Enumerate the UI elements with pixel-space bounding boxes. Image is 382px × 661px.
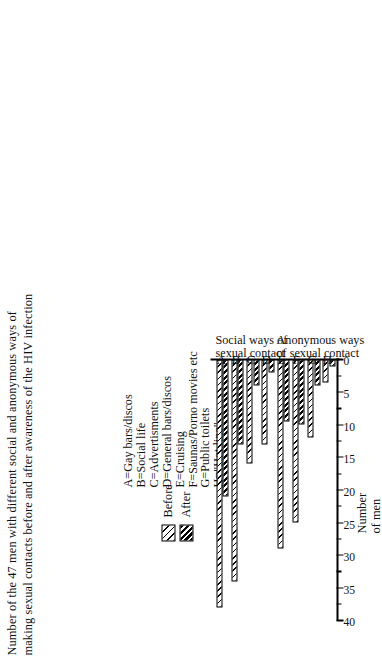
value-axis-tick xyxy=(336,375,341,376)
value-axis-tick-label: 40 xyxy=(343,616,355,629)
legend-swatch-after-icon xyxy=(179,524,193,541)
category-key-item-b: B=Social life xyxy=(134,351,147,487)
bar-before-d xyxy=(261,359,267,444)
value-axis-tick xyxy=(336,424,343,425)
value-axis-tick-label: 20 xyxy=(343,485,355,498)
legend-item-after: After xyxy=(178,484,193,541)
chart-title-line-1: Number of the 47 men with different soci… xyxy=(4,95,20,655)
category-key-item-g: G=Public toilets xyxy=(198,351,211,487)
value-axis-tick xyxy=(336,473,341,474)
value-axis-tick xyxy=(336,603,341,604)
chart-title-line-2: making sexual contacts before and after … xyxy=(20,95,36,655)
legend-swatch-before-icon xyxy=(161,524,175,541)
value-axis-tick xyxy=(336,554,343,555)
group-caption-anonymous-line-1: Anonymous ways xyxy=(276,333,364,346)
category-key: A=Gay bars/discos B=Social life C=Advert… xyxy=(121,351,224,487)
legend-label-after: After xyxy=(178,491,193,517)
legend-label-before: Before xyxy=(160,484,175,517)
legend: Before After xyxy=(160,484,196,541)
bar-before-f xyxy=(292,359,298,522)
bar-before-e xyxy=(277,359,283,548)
value-axis-tick-label: 30 xyxy=(343,550,355,563)
value-axis-tick-label: 15 xyxy=(343,452,355,465)
value-axis-tick xyxy=(336,505,341,506)
category-key-item-f: F=Saunas/Porno movies etc xyxy=(186,351,199,487)
group-caption-anonymous-line-2: of sexual contact xyxy=(276,346,364,359)
bar-before-c xyxy=(246,359,252,463)
category-key-item-c: C=Advertisments xyxy=(147,351,160,487)
category-key-item-e: E=Cruising xyxy=(173,351,186,487)
value-axis-tick-label: 5 xyxy=(343,387,349,400)
value-axis-tick xyxy=(336,619,343,620)
value-axis-tick-label: 35 xyxy=(343,583,355,596)
value-axis-title-line-1: Number xyxy=(355,492,369,533)
group-caption-anonymous: Anonymous ways of sexual contact xyxy=(276,333,364,360)
value-axis-tick-label: 10 xyxy=(343,420,355,433)
value-axis-tick xyxy=(336,522,343,523)
value-axis-tick xyxy=(336,489,343,490)
value-axis-tick-label: 25 xyxy=(343,518,355,531)
legend-item-before: Before xyxy=(160,484,175,541)
value-axis-tick xyxy=(336,587,343,588)
value-axis-tick xyxy=(336,440,341,441)
bar-after-b xyxy=(237,359,243,444)
plot-area: 4035302520151050 ABCDEFGH xyxy=(214,359,336,620)
value-axis-title-line-2: of men xyxy=(369,492,382,533)
bar-before-b xyxy=(231,359,237,581)
bar-after-e xyxy=(283,359,289,421)
chart-title: Number of the 47 men with different soci… xyxy=(4,95,35,655)
value-axis-tick xyxy=(336,407,341,408)
value-axis-tick xyxy=(336,391,343,392)
value-axis-tick xyxy=(336,456,343,457)
value-axis-title: Number of men xyxy=(355,492,382,533)
bar-after-f xyxy=(298,359,304,424)
bar-before-g xyxy=(307,359,313,437)
bar-before-a xyxy=(216,359,222,607)
category-key-item-d: D=General bars/discos xyxy=(160,351,173,487)
bar-after-a xyxy=(222,359,228,496)
category-key-item-a: A=Gay bars/discos xyxy=(121,351,134,487)
value-axis-tick xyxy=(336,570,341,571)
value-axis-tick xyxy=(336,538,341,539)
